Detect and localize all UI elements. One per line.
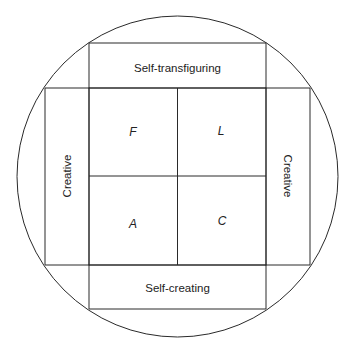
quadrant-f-label: F (129, 125, 137, 139)
top-band-label: Self-transfiguring (134, 62, 221, 74)
bottom-band-label: Self-creating (145, 282, 210, 294)
left-band-label: Creative (61, 155, 73, 198)
quadrant-c-label: C (218, 214, 227, 228)
quadrant-a-label: A (128, 217, 137, 231)
lfac-diagram: Self-transfiguring Self-creating Creativ… (0, 0, 353, 352)
right-band-label: Creative (282, 155, 294, 198)
quadrant-l-label: L (218, 124, 225, 138)
